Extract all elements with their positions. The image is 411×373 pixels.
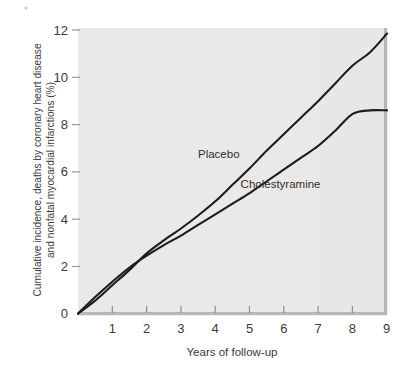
x-tick-label-4: 4 xyxy=(212,321,219,336)
plot-shading-band xyxy=(320,28,385,313)
y-tick-label-4: 4 xyxy=(61,212,68,227)
y-axis-title-line1: Cumulative incidence, deaths by coronary… xyxy=(32,43,43,296)
x-tick-label-5: 5 xyxy=(246,321,253,336)
y-tick-label-12: 12 xyxy=(54,23,68,38)
line-chart: 12 10 8 6 4 2 0 1 2 3 4 5 6 7 xyxy=(0,0,411,373)
x-tick-label-9: 9 xyxy=(383,321,390,336)
x-tick-label-6: 6 xyxy=(280,321,287,336)
x-tick-label-3: 3 xyxy=(177,321,184,336)
x-tick-label-2: 2 xyxy=(143,321,150,336)
x-tick-label-7: 7 xyxy=(314,321,321,336)
x-axis-title: Years of follow-up xyxy=(187,346,278,358)
series-annotation-cholestyramine: Cholestyramine xyxy=(241,178,321,190)
y-tick-label-2: 2 xyxy=(61,259,68,274)
scan-speck xyxy=(24,6,27,9)
y-tick-label-8: 8 xyxy=(61,117,68,132)
y-axis-title-line2: and nonfatal myocardial infarctions (%) xyxy=(45,82,56,258)
y-tick-label-6: 6 xyxy=(61,164,68,179)
chart-figure: 12 10 8 6 4 2 0 1 2 3 4 5 6 7 xyxy=(0,0,411,373)
y-tick-label-0: 0 xyxy=(61,306,68,321)
x-tick-label-1: 1 xyxy=(109,321,116,336)
x-tick-label-8: 8 xyxy=(349,321,356,336)
series-annotation-placebo: Placebo xyxy=(198,148,240,160)
